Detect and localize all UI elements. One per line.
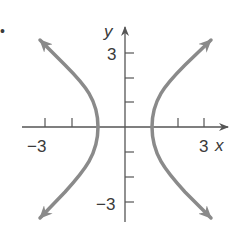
hyperbola-left-branch xyxy=(40,40,98,127)
y-axis-label: y xyxy=(103,22,114,41)
x-axis-label: x xyxy=(214,136,224,155)
hyperbola-graph: • y 3 −3 −3 3 x xyxy=(0,0,238,226)
x-tick-label-neg3: −3 xyxy=(27,137,46,156)
hyperbola-right-branch xyxy=(152,40,211,127)
y-tick-label-neg3: −3 xyxy=(96,195,115,214)
hyperbola-left-branch-lower xyxy=(40,127,98,218)
x-tick-label-3: 3 xyxy=(199,137,208,156)
y-tick-label-3: 3 xyxy=(107,45,116,64)
item-bullet: • xyxy=(0,23,5,39)
